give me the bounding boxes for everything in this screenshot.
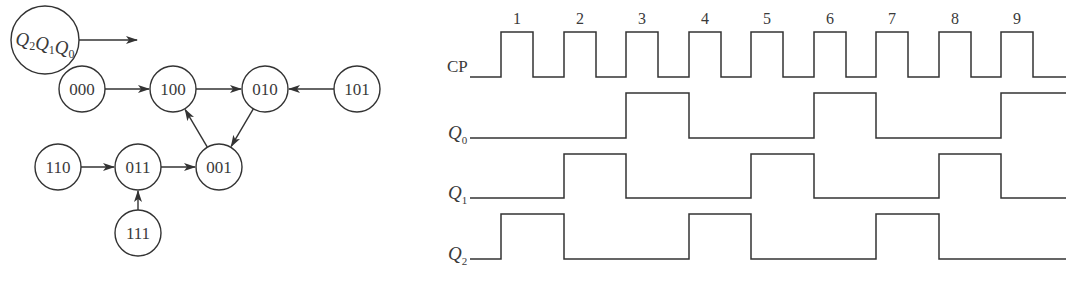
waveform-q2 — [470, 214, 1066, 259]
signal-q0: Q0 — [448, 93, 1066, 146]
clock-number-3: 3 — [638, 10, 646, 27]
state-node-011: 011 — [115, 144, 161, 190]
waveform-q1 — [470, 154, 1066, 198]
state-node-111: 111 — [115, 210, 161, 256]
clock-number-2: 2 — [576, 10, 584, 27]
figure-canvas: Q2Q1Q0 000100010101110011001111 12345678… — [0, 0, 1071, 284]
state-node-100: 100 — [150, 66, 196, 112]
state-label: 111 — [126, 224, 150, 243]
signal-cp: CP — [447, 32, 1066, 77]
signal-q2: Q2 — [448, 214, 1066, 267]
clock-number-8: 8 — [951, 10, 959, 27]
edge-001-to-100 — [185, 110, 207, 148]
state-label: 010 — [252, 80, 278, 99]
state-node-010: 010 — [242, 66, 288, 112]
clock-number-5: 5 — [763, 10, 771, 27]
timing-diagram: 123456789 CPQ0Q1Q2 — [447, 10, 1066, 267]
signal-q1: Q1 — [448, 154, 1066, 206]
signal-label: Q0 — [448, 122, 468, 146]
state-label: 100 — [160, 80, 186, 99]
state-node-110: 110 — [35, 144, 81, 190]
clock-number-7: 7 — [888, 10, 896, 27]
state-node-001: 001 — [196, 144, 242, 190]
clock-number-9: 9 — [1013, 10, 1021, 27]
state-label: 001 — [206, 158, 232, 177]
state-label: 000 — [69, 80, 95, 99]
clock-number-4: 4 — [701, 10, 709, 27]
state-label: 101 — [344, 80, 370, 99]
clock-number-1: 1 — [513, 10, 521, 27]
edge-010-to-001 — [231, 109, 253, 147]
state-transition-diagram: Q2Q1Q0 000100010101110011001111 — [11, 6, 380, 256]
clock-pulse-numbers: 123456789 — [513, 10, 1021, 27]
clock-number-6: 6 — [826, 10, 834, 27]
signal-label: Q2 — [448, 243, 467, 267]
signal-label: Q1 — [448, 182, 467, 206]
waveform-q0 — [470, 93, 1066, 138]
state-node-101: 101 — [334, 66, 380, 112]
state-nodes: 000100010101110011001111 — [35, 66, 380, 256]
state-label: 110 — [46, 158, 71, 177]
state-label: 011 — [126, 158, 151, 177]
waveform-cp — [470, 32, 1066, 77]
state-node-000: 000 — [59, 66, 105, 112]
waveforms: CPQ0Q1Q2 — [447, 32, 1066, 267]
signal-label: CP — [447, 57, 468, 76]
state-legend: Q2Q1Q0 — [11, 6, 137, 74]
